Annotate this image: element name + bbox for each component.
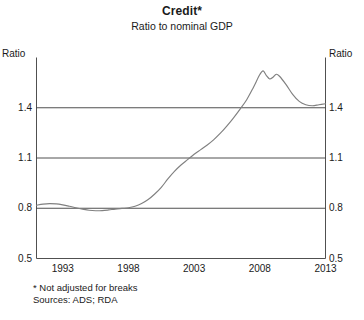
y-tick-right-0.5: 0.5 — [329, 254, 359, 264]
y-tick-left-0.8: 0.8 — [2, 203, 32, 213]
y-tick-left-0.5: 0.5 — [2, 254, 32, 264]
footnote-sources: Sources: ADS; RDA — [33, 294, 117, 305]
y-tick-right-1.1: 1.1 — [329, 153, 359, 163]
x-tick-2008: 2008 — [238, 264, 282, 274]
y-tick-left-1.1: 1.1 — [2, 153, 32, 163]
footnote-breaks: * Not adjusted for breaks — [33, 282, 138, 293]
x-tick-2003: 2003 — [172, 264, 216, 274]
y-tick-right-1.4: 1.4 — [329, 103, 359, 113]
y-tick-right-0.8: 0.8 — [329, 203, 359, 213]
x-tick-1998: 1998 — [106, 264, 150, 274]
y-tick-left-1.4: 1.4 — [2, 103, 32, 113]
gridlines — [37, 108, 326, 209]
x-tick-2013: 2013 — [304, 264, 348, 274]
credit-ratio-chart: Credit* Ratio to nominal GDP Ratio Ratio… — [0, 0, 364, 320]
data-line-credit — [37, 71, 326, 211]
x-tick-1993: 1993 — [41, 264, 85, 274]
